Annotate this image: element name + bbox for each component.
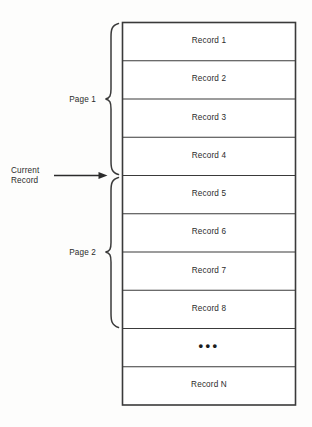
current-record-arrow — [54, 172, 108, 179]
table-row: Record 4 — [122, 151, 296, 160]
current-record-label-line2: Record — [11, 176, 39, 187]
page-2-brace — [106, 178, 119, 328]
table-row-ellipsis: ••• — [122, 338, 296, 353]
table-row: Record 2 — [122, 74, 296, 83]
record-paging-diagram: Record 1 Record 2 Record 3 Record 4 Reco… — [0, 0, 312, 427]
current-record-label: Current Record — [11, 166, 39, 187]
diagram-vector-layer — [0, 0, 312, 427]
table-row: Record 7 — [122, 266, 296, 275]
table-row: Record 8 — [122, 304, 296, 313]
table-row: Record 6 — [122, 227, 296, 236]
table-row: Record N — [122, 380, 296, 389]
table-row: Record 3 — [122, 113, 296, 122]
page-2-label: Page 2 — [34, 248, 96, 257]
page-1-brace — [106, 24, 119, 175]
table-row: Record 1 — [122, 36, 296, 45]
table-row: Record 5 — [122, 189, 296, 198]
current-record-label-line1: Current — [11, 166, 39, 177]
page-1-label: Page 1 — [34, 95, 96, 104]
